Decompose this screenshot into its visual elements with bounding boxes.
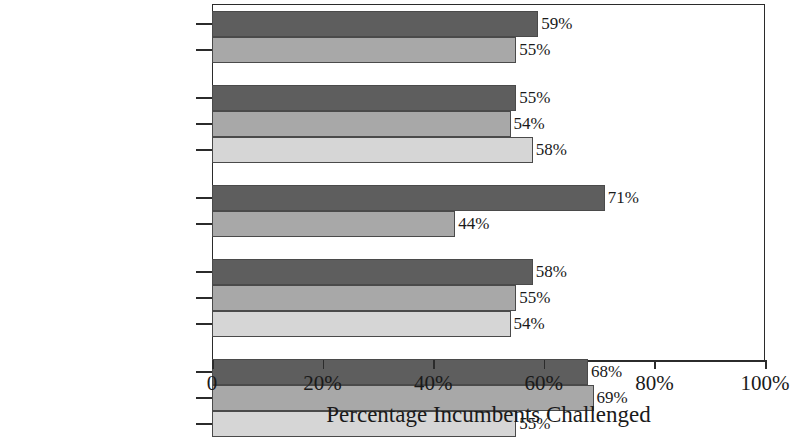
category-tick [196,397,212,399]
x-axis-title: Percentage Incumbents Challenged [212,402,765,428]
x-axis-tick [323,360,325,369]
bar [212,111,511,137]
bar-value-label: 54% [511,311,545,337]
bar-value-label: 68% [588,359,622,385]
category-tick [196,23,212,25]
bar [212,285,516,311]
bar-value-label: 58% [533,137,567,163]
x-axis-tick [544,360,546,369]
bar [212,259,533,285]
bar [212,11,538,37]
x-axis-tick [654,360,656,369]
bar [212,85,516,111]
bar [212,311,511,337]
category-tick [196,97,212,99]
x-axis-tick-label: 80% [635,371,674,396]
x-axis-tick-label: 60% [525,371,564,396]
bar-value-label: 55% [516,285,550,311]
x-axis-tick-label: 100% [741,371,790,396]
category-tick [196,297,212,299]
bar-value-label: 54% [511,111,545,137]
bar-chart: Women59%Men55%Bottom Third Salary55%Midd… [0,0,809,442]
category-tick [196,197,212,199]
x-axis-tick-label: 40% [414,371,453,396]
category-tick [196,323,212,325]
bar [212,185,605,211]
x-axis-tick [212,360,214,369]
category-tick [196,149,212,151]
x-axis-tick [433,360,435,369]
bar-value-label: 55% [516,37,550,63]
x-axis-tick [765,360,767,369]
bar-value-label: 44% [455,211,489,237]
category-tick [196,423,212,425]
bar-value-label: 71% [605,185,639,211]
x-axis-tick-label: 20% [303,371,342,396]
bar [212,211,455,237]
bar-value-label: 59% [538,11,572,37]
bar-value-label: 58% [533,259,567,285]
category-tick [196,123,212,125]
category-tick [196,223,212,225]
x-axis-tick-label: 0 [207,371,218,396]
bar [212,137,533,163]
bar [212,37,516,63]
bar-value-label: 55% [516,85,550,111]
category-tick [196,49,212,51]
category-tick [196,271,212,273]
